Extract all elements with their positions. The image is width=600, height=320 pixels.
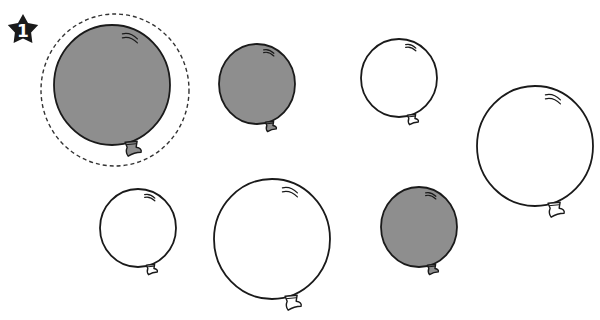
balloon-6[interactable] (214, 179, 330, 310)
balloon-group (54, 25, 593, 310)
balloon-7[interactable] (381, 187, 457, 275)
balloon-4[interactable] (477, 86, 593, 217)
exercise-number: 1 (17, 21, 29, 41)
balloon-body (381, 187, 457, 267)
balloon-1[interactable] (54, 25, 170, 156)
balloon-body (54, 25, 170, 145)
balloon-3[interactable] (361, 39, 437, 125)
balloon-knot-icon (285, 295, 301, 310)
balloon-body (219, 44, 295, 124)
balloon-body (100, 189, 176, 267)
balloon-body (361, 39, 437, 117)
balloon-2[interactable] (219, 44, 295, 132)
balloon-knot-icon (125, 141, 141, 156)
balloon-knot-icon (548, 202, 564, 217)
balloon-worksheet: 1 (0, 0, 600, 320)
balloon-5[interactable] (100, 189, 176, 275)
balloon-body (477, 86, 593, 206)
balloon-body (214, 179, 330, 299)
star-badge-icon: 1 (8, 14, 38, 43)
worksheet-canvas: 1 (0, 0, 600, 320)
